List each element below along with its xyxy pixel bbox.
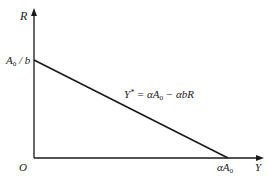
equation-label: Y* = αA0 − αbR xyxy=(124,89,194,102)
y-axis-arrow-icon xyxy=(31,8,37,16)
origin-label: O xyxy=(19,162,27,173)
x-intercept-label: αA0 xyxy=(217,162,233,175)
demand-line xyxy=(34,60,228,158)
diagram: R A0 / b Y* = αA0 − αbR O αA0 Y xyxy=(0,0,270,181)
y-axis-label: R xyxy=(20,10,27,22)
y-intercept-label: A0 / b xyxy=(6,55,30,68)
x-axis-label: Y xyxy=(255,162,261,173)
